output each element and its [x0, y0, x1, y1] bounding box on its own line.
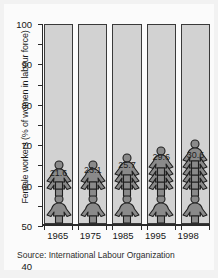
- value-label: 25.7: [118, 160, 136, 170]
- value-label: 23.1: [84, 165, 102, 175]
- y-tick-label: 100: [16, 19, 32, 30]
- female-figure-icon: [148, 166, 174, 176]
- y-tick-label: 40: [21, 261, 32, 272]
- y-tick-label: 90: [21, 59, 32, 70]
- x-tick-label: 1975: [77, 230, 105, 241]
- x-tick-mark: [181, 226, 210, 227]
- value-label: 21.6: [50, 168, 68, 178]
- columns-group: 21.623.125.729.630.6: [44, 24, 210, 224]
- y-tick-mark: 0: [38, 226, 43, 227]
- chart-card: Female workers (% of women in labour for…: [4, 4, 214, 270]
- y-tick-mark: 40: [38, 145, 43, 146]
- source-note: Source: International Labour Organizatio…: [17, 250, 175, 260]
- pictogram-stack: [45, 180, 72, 224]
- y-tick-mark: 10: [38, 206, 43, 207]
- x-tick-label: 1998: [174, 230, 202, 241]
- female-figure-icon: [148, 194, 174, 224]
- bar-column[interactable]: 23.1: [78, 24, 107, 224]
- y-tick-mark: 20: [38, 186, 43, 187]
- female-figure-icon: [80, 194, 106, 224]
- pictogram-stack: [79, 180, 106, 224]
- value-label: 30.6: [187, 150, 205, 160]
- value-label: 29.6: [152, 152, 170, 162]
- pictogram-stack: [182, 159, 209, 224]
- female-figure-icon: [46, 194, 72, 224]
- pictogram-stack: [113, 173, 140, 224]
- x-tick-mark: [78, 226, 107, 227]
- y-tick-mark: 90: [38, 44, 43, 45]
- y-tick-label: 50: [21, 221, 32, 232]
- x-axis-labels: 19651975198519951998: [44, 230, 202, 241]
- x-axis-ticks: [44, 226, 210, 227]
- female-figure-icon: [46, 180, 72, 190]
- y-tick-label: 70: [21, 140, 32, 151]
- y-tick-mark: 50: [38, 125, 43, 126]
- y-tick-mark: 60: [38, 105, 43, 106]
- x-tick-mark: [147, 226, 176, 227]
- x-tick-mark: [112, 226, 141, 227]
- y-tick-mark: 70: [38, 85, 43, 86]
- bar-column[interactable]: 25.7: [112, 24, 141, 224]
- chart-figure: Female workers (% of women in labour for…: [0, 0, 218, 278]
- bar-column[interactable]: 21.6: [44, 24, 73, 224]
- female-figure-icon: [114, 173, 140, 183]
- plot-area: 0102030405060708090100 21.623.125.729.63…: [42, 24, 210, 226]
- y-tick-label: 60: [21, 180, 32, 191]
- y-tick-mark: 100: [38, 24, 43, 25]
- bar-column[interactable]: 29.6: [147, 24, 176, 224]
- x-tick-label: 1965: [44, 230, 72, 241]
- x-tick-label: 1985: [109, 230, 137, 241]
- x-tick-label: 1995: [142, 230, 170, 241]
- female-figure-icon: [182, 194, 208, 224]
- x-tick-mark: [44, 226, 73, 227]
- female-figure-icon: [182, 159, 208, 169]
- y-tick-mark: 30: [38, 165, 43, 166]
- pictogram-stack: [148, 166, 175, 224]
- female-figure-icon: [114, 194, 140, 224]
- bar-column[interactable]: 30.6: [181, 24, 210, 224]
- female-figure-icon: [80, 180, 106, 190]
- y-tick-mark: 80: [38, 64, 43, 65]
- y-tick-label: 80: [21, 99, 32, 110]
